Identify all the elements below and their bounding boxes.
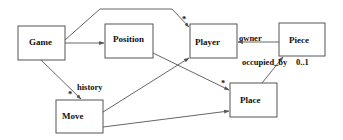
- class-position: Position: [105, 24, 153, 58]
- multiplicity-occupied-by: 0..1: [296, 57, 309, 67]
- class-piece: Piece: [279, 23, 325, 56]
- class-game: Game: [18, 26, 65, 60]
- class-player-label: Player: [195, 37, 220, 47]
- class-piece-label: Piece: [289, 35, 309, 45]
- multiplicity-history: *: [68, 89, 72, 99]
- uml-class-diagram: Game Position Player Piece Move Place * …: [0, 0, 343, 140]
- role-occupied-by: occupied_by: [242, 57, 288, 67]
- class-player: Player: [190, 24, 237, 58]
- multiplicity-position-place: *: [221, 78, 225, 88]
- assoc-position-place: [153, 53, 229, 90]
- class-place-label: Place: [240, 95, 261, 105]
- multiplicity-game-player: *: [182, 14, 186, 24]
- role-history: history: [77, 82, 103, 92]
- class-position-label: Position: [113, 34, 144, 44]
- class-place: Place: [230, 83, 277, 117]
- role-owner: owner: [239, 33, 262, 43]
- class-move-label: Move: [62, 111, 84, 121]
- assoc-move-place: [103, 111, 229, 127]
- class-move: Move: [56, 100, 103, 133]
- assoc-move-player: [103, 58, 189, 112]
- assoc-game-move: [41, 60, 81, 99]
- class-game-label: Game: [29, 37, 52, 47]
